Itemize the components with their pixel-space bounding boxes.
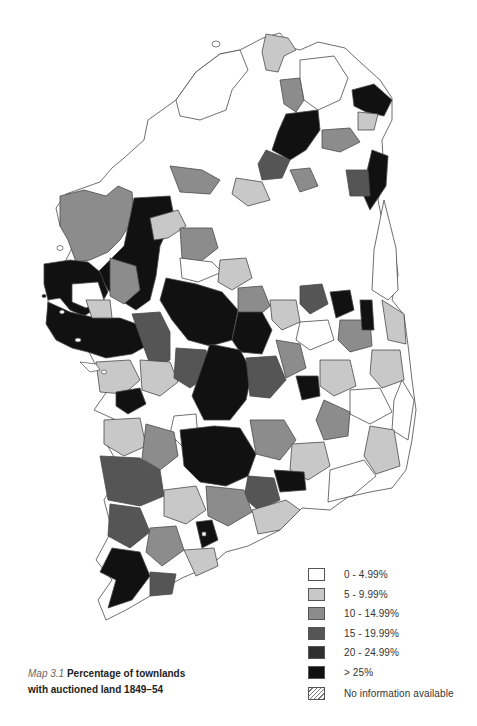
legend-item-15-20: 15 - 19.99%: [308, 624, 477, 644]
legend-item-0-5: 0 - 4.99%: [308, 565, 477, 585]
legend-label: 20 - 24.99%: [344, 647, 399, 658]
legend-label: > 25%: [344, 667, 373, 678]
legend-item-10-15: 10 - 14.99%: [308, 604, 477, 624]
map-regions: [44, 33, 416, 620]
map-caption: Map 3.1 Percentage of townlands with auc…: [28, 666, 185, 698]
legend-item-5-10: 5 - 9.99%: [308, 585, 477, 605]
legend-label: No information available: [344, 688, 454, 699]
legend-label: 0 - 4.99%: [344, 569, 388, 580]
legend-item-over-25: > 25%: [308, 663, 477, 683]
legend-swatch-hatched: [308, 687, 325, 700]
caption-title-line1: Percentage of townlands: [67, 668, 185, 679]
legend-label: 10 - 14.99%: [344, 608, 399, 619]
legend-swatch-light-grey: [308, 588, 325, 601]
legend-swatch-dark-grey: [308, 627, 325, 640]
legend-item-20-25: 20 - 24.99%: [308, 643, 477, 663]
legend-swatch-black: [308, 666, 325, 679]
legend-swatch-mid-grey: [308, 607, 325, 620]
caption-map-number: Map 3.1: [28, 668, 64, 679]
legend-item-no-data: No information available: [308, 684, 477, 704]
legend-label: 15 - 19.99%: [344, 628, 399, 639]
legend-swatch-very-dark: [308, 646, 325, 659]
legend-label: 5 - 9.99%: [344, 589, 388, 600]
legend-swatch-white: [308, 568, 325, 581]
map-legend: 0 - 4.99% 5 - 9.99% 10 - 14.99% 15 - 19.…: [308, 565, 477, 704]
caption-title-line2: with auctioned land 1849–54: [28, 682, 185, 698]
